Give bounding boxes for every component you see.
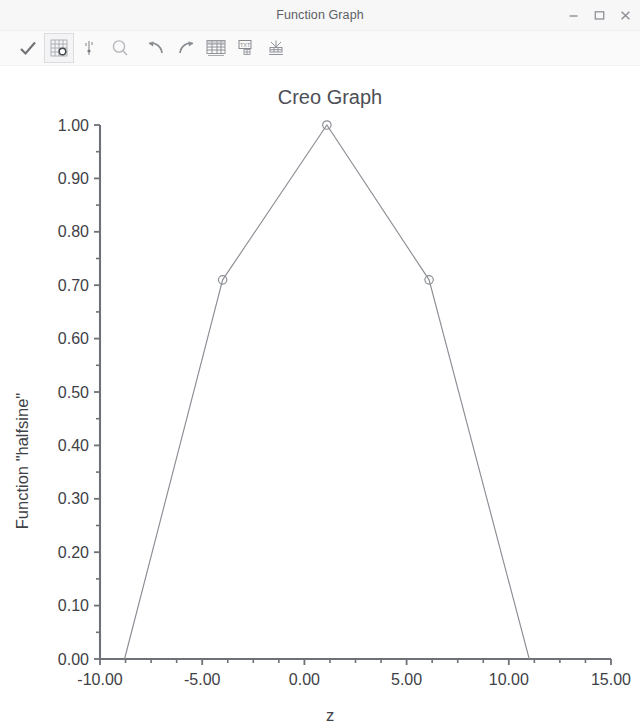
text-table-icon: TXT	[235, 38, 257, 58]
zoom-button[interactable]	[106, 34, 134, 62]
redo-button[interactable]	[172, 34, 200, 62]
x-tick-label: -10.00	[77, 671, 122, 688]
x-tick-label: 15.00	[591, 671, 631, 688]
close-button[interactable]	[619, 9, 632, 22]
y-tick-label: 0.90	[58, 170, 89, 187]
table-icon	[204, 38, 228, 58]
y-tick-label: 0.40	[58, 437, 89, 454]
chart-title: Creo Graph	[278, 86, 383, 108]
window-titlebar[interactable]: Function Graph	[0, 0, 640, 31]
window-controls	[567, 0, 632, 30]
y-tick-label: 0.20	[58, 544, 89, 561]
graph-canvas[interactable]: Creo Graph Function "halfsine" z 0.000.1…	[0, 66, 640, 726]
text-table-button[interactable]: TXT	[232, 34, 260, 62]
undo-arrow-icon	[145, 38, 167, 58]
axis-scale-button[interactable]	[76, 34, 104, 62]
x-tick-label: -5.00	[184, 671, 221, 688]
export-graph-icon	[264, 38, 288, 58]
accept-checkmark-button[interactable]	[14, 34, 42, 62]
undo-button[interactable]	[142, 34, 170, 62]
data-series-halfsine[interactable]	[125, 125, 530, 659]
data-point-markers[interactable]	[218, 121, 433, 284]
axis-scale-icon	[80, 38, 100, 58]
svg-text:TXT: TXT	[240, 42, 251, 48]
major-tick-marks	[94, 125, 611, 665]
y-tick-label: 0.60	[58, 330, 89, 347]
grid-properties-icon	[49, 38, 69, 58]
function-plot[interactable]: Creo Graph Function "halfsine" z 0.000.1…	[0, 66, 640, 726]
y-tick-label: 1.00	[58, 117, 89, 134]
graph-toolbar: TXT	[0, 31, 640, 66]
graph-properties-button[interactable]	[44, 33, 74, 63]
window-title: Function Graph	[276, 8, 364, 22]
y-tick-label: 0.80	[58, 223, 89, 240]
y-axis-label: Function "halfsine"	[13, 393, 31, 530]
x-tick-label: 0.00	[289, 671, 320, 688]
series-polyline[interactable]	[125, 125, 530, 659]
export-graph-button[interactable]	[262, 34, 290, 62]
show-table-button[interactable]	[202, 34, 230, 62]
redo-arrow-icon	[175, 38, 197, 58]
x-tick-label: 5.00	[391, 671, 422, 688]
maximize-button[interactable]	[593, 9, 606, 22]
axis-lines	[100, 125, 611, 659]
x-tick-labels: -10.00-5.000.005.0010.0015.00	[77, 671, 631, 688]
y-tick-label: 0.00	[58, 651, 89, 668]
minimize-button[interactable]	[567, 9, 580, 22]
minor-tick-marks	[96, 152, 585, 663]
x-axis-label: z	[326, 706, 334, 724]
y-tick-label: 0.70	[58, 277, 89, 294]
function-graph-window: Function Graph	[0, 0, 640, 726]
y-tick-label: 0.50	[58, 384, 89, 401]
y-tick-labels: 0.000.100.200.300.400.500.600.700.800.90…	[58, 117, 89, 668]
magnifier-icon	[110, 38, 130, 58]
y-tick-label: 0.10	[58, 597, 89, 614]
x-tick-label: 10.00	[489, 671, 529, 688]
check-icon	[18, 38, 38, 58]
y-tick-label: 0.30	[58, 490, 89, 507]
